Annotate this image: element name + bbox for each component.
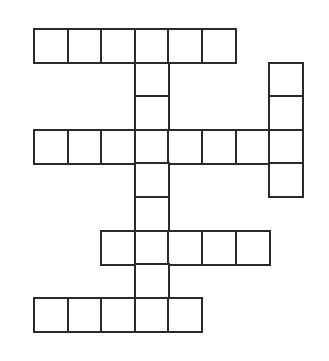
crossword-cell[interactable] bbox=[33, 28, 69, 64]
crossword-cell[interactable] bbox=[167, 230, 203, 266]
crossword-cell[interactable] bbox=[134, 196, 170, 232]
crossword-cell[interactable] bbox=[67, 28, 103, 64]
crossword-cell[interactable] bbox=[67, 129, 103, 165]
crossword-cell[interactable] bbox=[235, 230, 271, 266]
crossword-cell[interactable] bbox=[100, 129, 136, 165]
crossword-cell[interactable] bbox=[67, 297, 103, 333]
crossword-cell[interactable] bbox=[134, 129, 170, 165]
crossword-cell[interactable] bbox=[201, 28, 237, 64]
crossword-cell[interactable] bbox=[100, 230, 136, 266]
crossword-cell[interactable] bbox=[134, 162, 170, 198]
crossword-cell[interactable] bbox=[268, 129, 304, 165]
crossword-cell[interactable] bbox=[167, 28, 203, 64]
crossword-cell[interactable] bbox=[33, 297, 69, 333]
crossword-cell[interactable] bbox=[167, 297, 203, 333]
crossword-cell[interactable] bbox=[134, 28, 170, 64]
crossword-cell[interactable] bbox=[167, 129, 203, 165]
crossword-cell[interactable] bbox=[268, 162, 304, 198]
crossword-cell[interactable] bbox=[100, 28, 136, 64]
crossword-cell[interactable] bbox=[268, 95, 304, 131]
crossword-cell[interactable] bbox=[268, 62, 304, 98]
crossword-cell[interactable] bbox=[201, 129, 237, 165]
crossword-cell[interactable] bbox=[134, 95, 170, 131]
crossword-cell[interactable] bbox=[100, 297, 136, 333]
crossword-cell[interactable] bbox=[134, 263, 170, 299]
crossword-cell[interactable] bbox=[235, 129, 271, 165]
crossword-cell[interactable] bbox=[201, 230, 237, 266]
crossword-cell[interactable] bbox=[134, 230, 170, 266]
crossword-cell[interactable] bbox=[134, 297, 170, 333]
crossword-cell[interactable] bbox=[33, 129, 69, 165]
crossword-grid bbox=[0, 0, 329, 361]
crossword-cell[interactable] bbox=[134, 62, 170, 98]
